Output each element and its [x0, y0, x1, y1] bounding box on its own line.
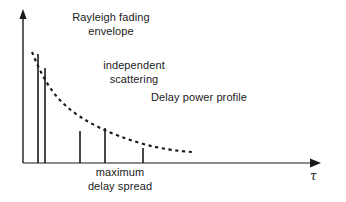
delay-axis-arrow-icon — [310, 159, 321, 168]
delay-power-profile-figure: Rayleigh fading envelope independent sca… — [0, 0, 346, 202]
label-delay-power-profile: Delay power profile — [151, 91, 311, 105]
power-axis — [19, 9, 26, 163]
label-rayleigh-fading-envelope: Rayleigh fading envelope — [46, 11, 176, 38]
power-axis-arrow-icon — [19, 9, 26, 19]
label-maximum-delay-spread: maximum delay spread — [56, 166, 184, 193]
delay-axis-label-tau: τ — [310, 170, 317, 183]
label-independent-scattering: independent scattering — [78, 59, 190, 86]
